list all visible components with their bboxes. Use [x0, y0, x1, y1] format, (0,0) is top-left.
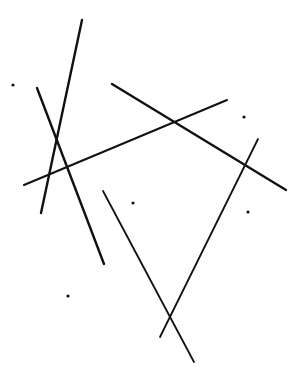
- line-5: [160, 139, 258, 337]
- line-3: [24, 100, 227, 185]
- diagram-svg: [0, 0, 303, 377]
- line-segments: [24, 20, 286, 362]
- line-6: [103, 191, 194, 362]
- dot-4: [246, 210, 249, 213]
- line-dot-diagram: [0, 0, 303, 377]
- dot-3: [131, 201, 134, 204]
- dot-2: [242, 115, 245, 118]
- dot-1: [11, 83, 14, 86]
- dot-5: [66, 294, 69, 297]
